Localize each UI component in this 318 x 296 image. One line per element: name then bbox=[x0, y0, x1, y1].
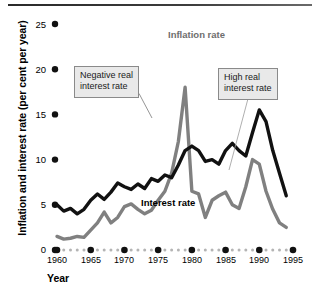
annotation-high-line1: High real bbox=[224, 72, 272, 83]
inflation-rate-series-label: Inflation rate bbox=[168, 29, 225, 40]
chart-figure: Inflation and interest rate (per cent pe… bbox=[0, 0, 318, 296]
y-tick-dots bbox=[52, 21, 58, 253]
annotation-high-line2: interest rate bbox=[224, 83, 272, 94]
annotation-negative-real-interest-rate: Negative real interest rate bbox=[74, 66, 139, 98]
interest-rate-series-label: Interest rate bbox=[141, 197, 195, 208]
annotation-negative-line1: Negative real bbox=[80, 70, 133, 81]
annotation-leader-line-negative bbox=[139, 94, 152, 119]
series-line-inflation-rate bbox=[57, 87, 286, 239]
x-axis-dotted-baseline bbox=[54, 247, 297, 254]
plot-area bbox=[0, 0, 318, 296]
annotation-leader-line-high bbox=[229, 100, 248, 171]
annotation-high-real-interest-rate: High real interest rate bbox=[218, 68, 278, 100]
annotation-negative-line2: interest rate bbox=[80, 81, 133, 92]
